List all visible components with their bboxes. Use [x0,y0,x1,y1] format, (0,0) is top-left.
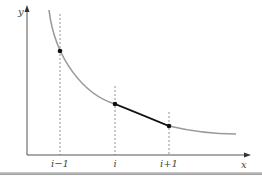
finite-difference-diagram: y x i−1 i i+1 [0,0,262,176]
y-axis-label: y [17,6,24,17]
point-i-plus-1 [167,124,172,129]
x-axis-label: x [241,159,247,170]
bottom-rule [0,172,262,175]
tick-label-i-plus-1: i+1 [160,158,178,169]
tick-label-i: i [113,158,116,169]
x-axis-arrow-icon [244,153,251,158]
point-i-minus-1 [58,49,63,54]
secant-segment [115,104,169,126]
y-axis-arrow-icon [25,5,30,12]
point-i [113,102,118,107]
tick-label-i-minus-1: i−1 [51,158,69,169]
